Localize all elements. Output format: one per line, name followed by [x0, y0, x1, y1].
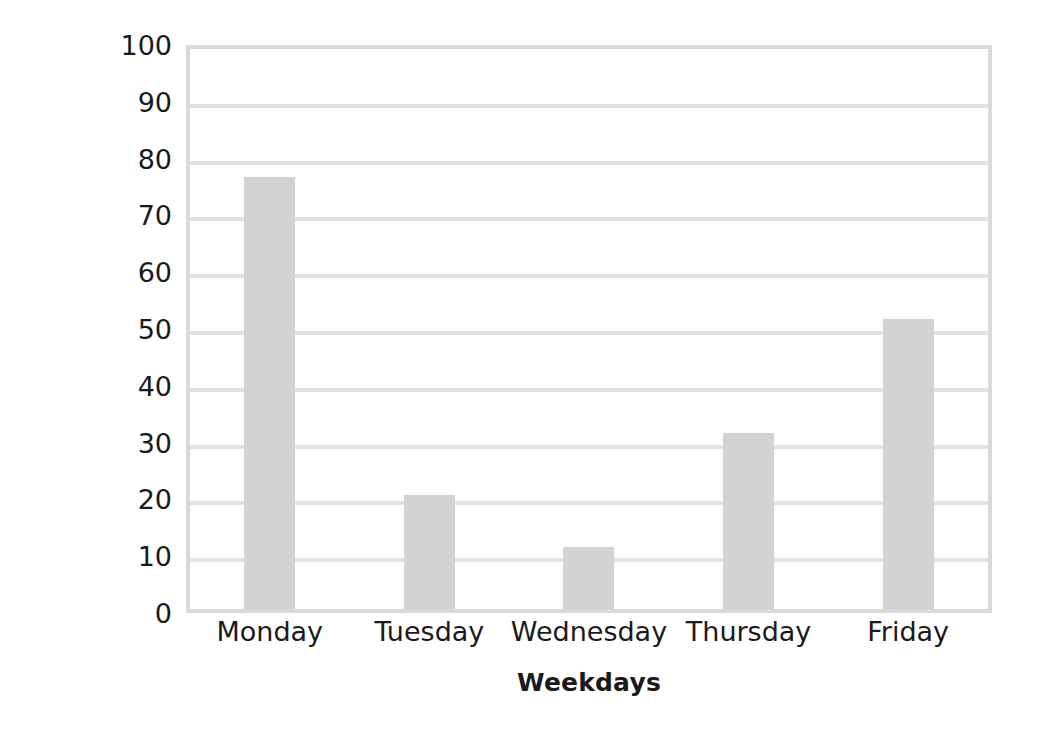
- y-axis-tick-label: 40: [96, 372, 172, 399]
- bar-slot: [350, 49, 510, 609]
- bar-chart: Chance of Snow in Percentage 10090807060…: [0, 0, 1043, 738]
- plot-area: [186, 45, 992, 613]
- x-axis-tick-labels: MondayTuesdayWednesdayThursdayFriday: [190, 616, 988, 647]
- bar-friday[interactable]: [883, 319, 934, 609]
- x-axis-tick-label: Friday: [828, 616, 988, 647]
- y-axis-tick-labels: 1009080706050403020100: [96, 45, 172, 613]
- y-axis-tick-label: 90: [96, 88, 172, 115]
- y-axis-tick-label: 100: [96, 32, 172, 59]
- bar-monday[interactable]: [244, 177, 295, 609]
- y-axis-tick-label: 70: [96, 202, 172, 229]
- x-axis-tick-label: Monday: [190, 616, 350, 647]
- bar-thursday[interactable]: [723, 433, 774, 609]
- y-axis-tick-label: 30: [96, 429, 172, 456]
- bar-slot: [190, 49, 350, 609]
- bar-tuesday[interactable]: [404, 495, 455, 609]
- x-axis-tick-label: Tuesday: [350, 616, 510, 647]
- bar-slot: [828, 49, 988, 609]
- y-axis-tick-label: 20: [96, 486, 172, 513]
- y-axis-tick-label: 10: [96, 543, 172, 570]
- bar-slot: [509, 49, 669, 609]
- y-axis-tick-label: 60: [96, 259, 172, 286]
- bars-container: [190, 49, 988, 609]
- y-axis-tick-label: 80: [96, 145, 172, 172]
- x-axis-title: Weekdays: [186, 668, 992, 697]
- bar-wednesday[interactable]: [563, 547, 614, 609]
- bar-slot: [669, 49, 829, 609]
- y-axis-tick-label: 50: [96, 316, 172, 343]
- x-axis-tick-label: Thursday: [669, 616, 829, 647]
- x-axis-tick-label: Wednesday: [509, 616, 669, 647]
- y-axis-tick-label: 0: [96, 600, 172, 627]
